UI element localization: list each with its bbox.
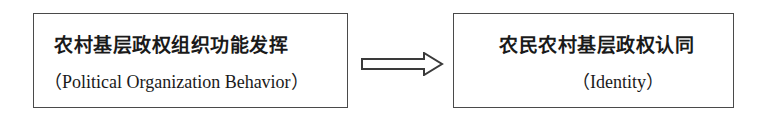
node-subtitle: （Political Organization Behavior） <box>44 67 309 93</box>
node-subtitle: （Identity） <box>572 67 664 93</box>
node-title: 农村基层政权组织功能发挥 <box>54 30 288 57</box>
node-identity: 农民农村基层政权认同 （Identity） <box>453 13 734 108</box>
node-political-organization-behavior: 农村基层政权组织功能发挥 （Political Organization Beh… <box>33 13 348 108</box>
node-title: 农民农村基层政权认同 <box>499 30 694 57</box>
right-arrow-icon <box>360 52 444 76</box>
